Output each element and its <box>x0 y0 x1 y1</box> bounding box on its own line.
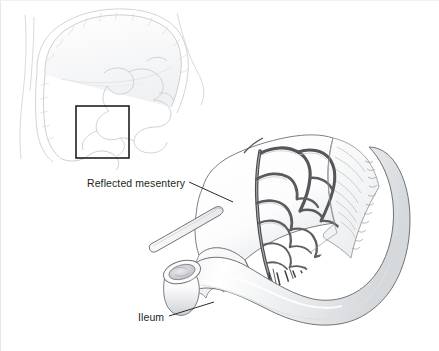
illustration-canvas: Reflected mesentery Ileum <box>0 0 439 351</box>
medical-illustration <box>1 1 439 351</box>
label-reflected-mesentery: Reflected mesentery <box>87 178 185 189</box>
terminal-ileum-inset <box>60 151 119 170</box>
cut-end-of-ileum <box>161 256 204 315</box>
label-ileum: Ileum <box>138 312 164 323</box>
ileum-mesentery-detail <box>149 135 410 325</box>
colon-frame <box>36 9 189 162</box>
roi-box <box>76 106 129 158</box>
abdominal-overview-inset <box>20 9 204 170</box>
